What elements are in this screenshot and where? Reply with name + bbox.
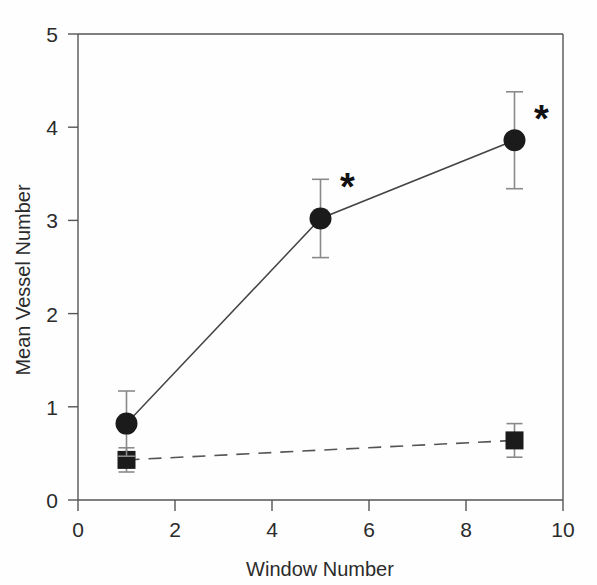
data-marker-circle-x9 bbox=[504, 129, 526, 151]
y-tick-labels: 0 1 2 3 4 5 bbox=[46, 23, 58, 512]
y-tick-label-2: 2 bbox=[46, 303, 58, 326]
x-axis-title: Window Number bbox=[246, 558, 394, 580]
significance-asterisk-x5: * bbox=[340, 166, 355, 208]
data-marker-circle-x1 bbox=[116, 413, 138, 435]
dashed-series-line bbox=[127, 440, 515, 460]
dashed-square-series bbox=[118, 424, 524, 472]
y-tick-label-1: 1 bbox=[46, 396, 58, 419]
x-tick-label-8: 8 bbox=[460, 518, 472, 541]
chart-canvas: 0 1 2 3 4 5 0 2 4 6 8 10 Window Number M… bbox=[0, 0, 597, 585]
figure-container: 0 1 2 3 4 5 0 2 4 6 8 10 Window Number M… bbox=[0, 0, 597, 585]
y-tick-marks bbox=[68, 34, 78, 500]
solid-circle-series bbox=[116, 92, 526, 456]
x-tick-label-6: 6 bbox=[363, 518, 375, 541]
x-tick-label-4: 4 bbox=[266, 518, 278, 541]
y-tick-label-4: 4 bbox=[46, 116, 58, 139]
significance-asterisk-x9: * bbox=[534, 98, 549, 140]
x-tick-label-0: 0 bbox=[72, 518, 84, 541]
y-tick-label-5: 5 bbox=[46, 23, 58, 46]
y-tick-label-0: 0 bbox=[46, 489, 58, 512]
axis-frame bbox=[78, 34, 563, 500]
x-tick-label-10: 10 bbox=[551, 518, 574, 541]
y-axis-title: Mean Vessel Number bbox=[12, 184, 34, 376]
data-marker-square-x9 bbox=[506, 431, 524, 449]
x-tick-labels: 0 2 4 6 8 10 bbox=[72, 518, 575, 541]
y-tick-label-3: 3 bbox=[46, 209, 58, 232]
x-tick-marks bbox=[78, 500, 563, 511]
data-marker-circle-x5 bbox=[310, 208, 332, 230]
x-tick-label-2: 2 bbox=[169, 518, 181, 541]
